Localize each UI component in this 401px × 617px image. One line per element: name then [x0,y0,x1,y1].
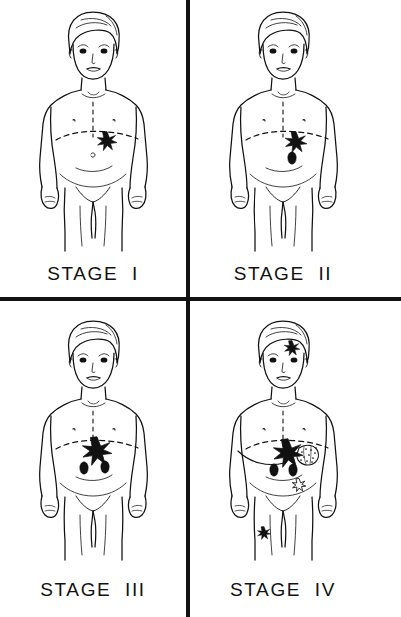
tumor-marker-primary [97,132,117,151]
tumor-marker-primary [273,439,302,467]
stage-label-1: STAGE I [0,263,186,285]
child-figure-stage-2 [190,0,376,297]
child-figure-stage-1 [0,0,186,297]
lymph-node-marker [80,461,109,474]
body-illustration [208,6,358,254]
panel-stage-2: STAGE II [190,0,376,297]
stage-label-4: STAGE IV [190,579,376,601]
metastasis-marker-abdomen [292,478,306,491]
body-illustration [208,315,358,563]
stage-label-3: STAGE III [0,579,186,601]
panel-stage-1: STAGE I [0,0,186,297]
metastasis-marker-head [284,340,300,355]
metastasis-marker-thigh [257,526,271,539]
staging-figure: STAGE I [0,0,401,617]
tumor-marker-primary [285,132,307,153]
body-illustration [18,315,168,563]
stage-label-2: STAGE II [190,263,376,285]
panel-stage-4: STAGE IV [190,301,376,617]
panel-stage-3: STAGE III [0,301,186,617]
lymph-node-marker [288,152,296,164]
child-figure-stage-3 [0,301,186,617]
child-figure-stage-4 [190,301,376,617]
body-illustration [18,6,168,254]
